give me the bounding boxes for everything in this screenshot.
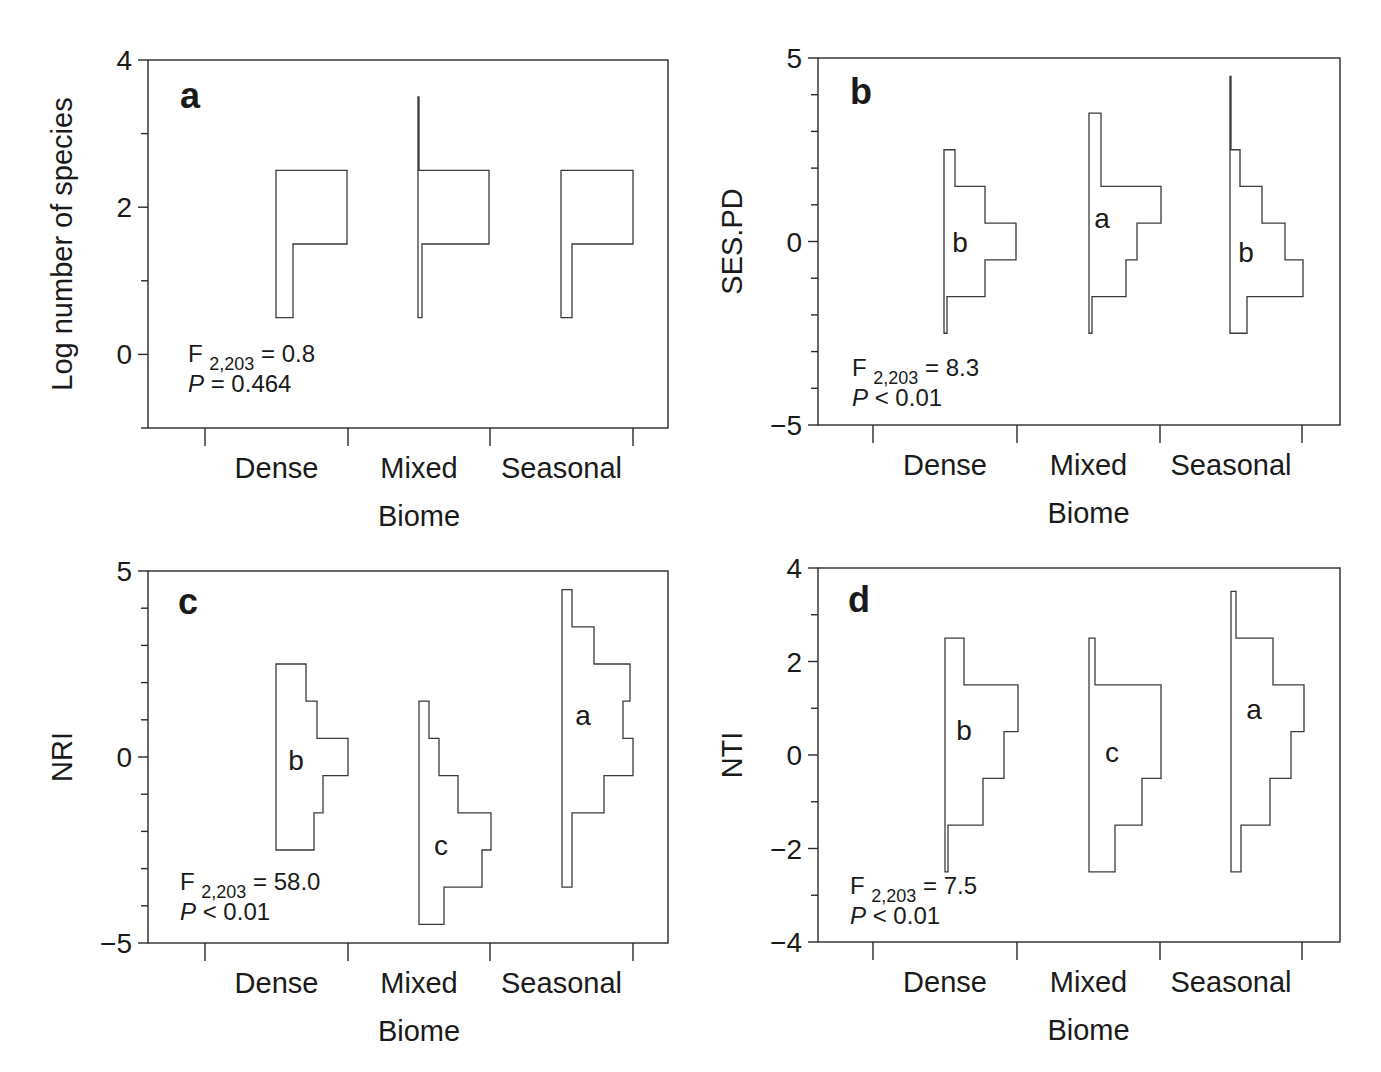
x-category-label: Seasonal [1171,966,1292,998]
y-tick-label: 4 [786,553,802,584]
panel-letter: b [850,71,872,112]
p-value: P = 0.464 [188,370,291,397]
x-category-label: Mixed [1050,449,1127,481]
x-category-label: Dense [903,449,987,481]
y-tick-label: 5 [786,43,802,74]
y-tick-label: −4 [770,927,802,958]
y-tick-label: 0 [786,227,802,258]
x-category-label: Seasonal [1171,449,1292,481]
panel-letter: c [178,581,198,622]
histogram-dense [276,664,348,850]
y-tick-label: −5 [770,410,802,441]
f-statistic: F 2,203 = 7.5 [850,872,977,906]
significance-group-letter: a [1246,694,1262,725]
panel-letter: d [848,579,870,620]
panel-d-nti: −4−2024DenseMixedSeasonalBiomeNTIdbcaF 2… [716,553,1340,1046]
y-tick-label: 0 [116,339,132,370]
y-tick-label: 0 [116,742,132,773]
p-value: P < 0.01 [852,384,942,411]
f-statistic: F 2,203 = 8.3 [852,354,979,388]
panel-a-species-richness: 024DenseMixedSeasonalBiomeLog number of … [46,45,668,532]
x-category-label: Seasonal [501,967,622,999]
x-category-label: Mixed [380,452,457,484]
f-statistic: F 2,203 = 58.0 [180,868,320,902]
panel-c-nri: −505DenseMixedSeasonalBiomeNRIcbcaF 2,20… [46,556,668,1047]
panel-b-ses-pd: −505DenseMixedSeasonalBiomeSES.PDbbabF 2… [716,43,1340,529]
figure-canvas: 024DenseMixedSeasonalBiomeLog number of … [0,0,1381,1072]
p-value: P < 0.01 [850,902,940,929]
significance-group-letter: a [1094,203,1110,234]
significance-group-letter: b [288,745,304,776]
x-category-label: Dense [235,452,319,484]
x-axis-title: Biome [378,500,460,532]
y-tick-label: 2 [786,647,802,678]
histogram-seasonal [562,590,633,888]
y-axis-title: SES.PD [716,188,748,294]
x-category-label: Mixed [1050,966,1127,998]
histogram-mixed [418,97,489,318]
x-category-label: Mixed [380,967,457,999]
y-tick-label: 4 [116,45,132,76]
p-value: P < 0.01 [180,898,270,925]
histogram-mixed [419,701,491,924]
significance-group-letter: c [1105,737,1119,768]
panel-letter: a [180,75,201,116]
x-category-label: Dense [903,966,987,998]
y-tick-label: −2 [770,834,802,865]
y-axis-title: NTI [716,732,748,779]
x-category-label: Dense [235,967,319,999]
y-axis-title: Log number of species [46,97,78,390]
y-axis-title: NRI [46,732,78,782]
y-tick-label: 5 [116,556,132,587]
histogram-dense [276,170,347,317]
y-tick-label: 0 [786,740,802,771]
x-axis-title: Biome [378,1015,460,1047]
y-tick-label: 2 [116,192,132,223]
f-statistic: F 2,203 = 0.8 [188,340,315,374]
histogram-mixed [1089,638,1161,872]
x-category-label: Seasonal [501,452,622,484]
y-tick-label: −5 [100,928,132,959]
significance-group-letter: b [1238,237,1254,268]
histogram-seasonal [1231,591,1304,872]
histogram-seasonal [561,170,633,317]
significance-group-letter: a [575,700,591,731]
significance-group-letter: c [434,830,448,861]
significance-group-letter: b [956,715,972,746]
histogram-dense [945,638,1018,872]
histogram-seasonal [1230,76,1303,333]
x-axis-title: Biome [1047,1014,1129,1046]
x-axis-title: Biome [1047,497,1129,529]
significance-group-letter: b [952,227,968,258]
